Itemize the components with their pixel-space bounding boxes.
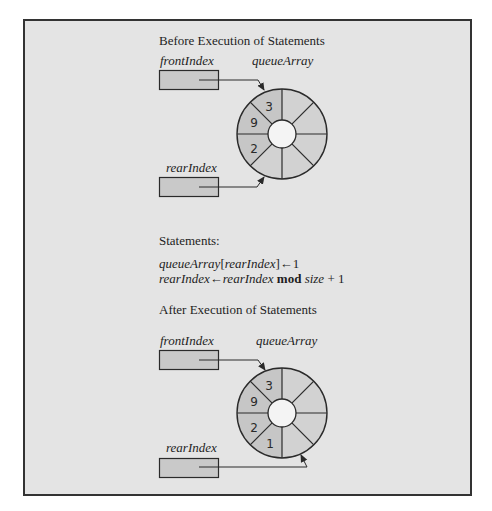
after-circular-array: 3 9 2 1 — [237, 368, 327, 458]
after-cell-3: 1 — [266, 437, 274, 451]
before-cell-2: 2 — [250, 142, 258, 156]
after-cell-1: 9 — [250, 395, 258, 409]
queue-diagram: 3 9 2 3 9 2 1 — [0, 0, 492, 511]
after-cell-0: 3 — [265, 379, 273, 393]
before-circular-array: 3 9 2 — [237, 89, 327, 179]
before-cell-0: 3 — [265, 100, 273, 114]
after-rear-index-box — [160, 459, 219, 478]
after-cell-2: 2 — [250, 421, 258, 435]
before-cell-1: 9 — [250, 116, 258, 130]
